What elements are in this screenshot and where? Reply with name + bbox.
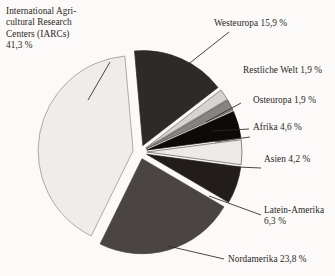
slice-label-iarcs: International Agri- cultural Research Ce… xyxy=(6,6,126,52)
slice-label-afrika: Afrika 4,6 % xyxy=(253,122,302,133)
slice-label-latein-amerika: Latein-Amerika 6,3 % xyxy=(264,205,334,228)
pie-chart: International Agri- cultural Research Ce… xyxy=(0,0,335,276)
slice-label-nordamerika: Nordamerika 23,8 % xyxy=(228,254,307,265)
leader-line-nordamerika xyxy=(168,246,224,259)
slice-label-westeuropa: Westeuropa 15,9 % xyxy=(214,18,287,29)
pie-slice-layer xyxy=(38,51,242,254)
leader-line-westeuropa xyxy=(186,32,229,66)
slice-label-asien: Asien 4,2 % xyxy=(264,154,310,165)
slice-label-osteuropa: Osteuropa 1,9 % xyxy=(253,95,316,106)
slice-label-restliche-welt: Restliche Welt 1,9 % xyxy=(243,65,322,76)
